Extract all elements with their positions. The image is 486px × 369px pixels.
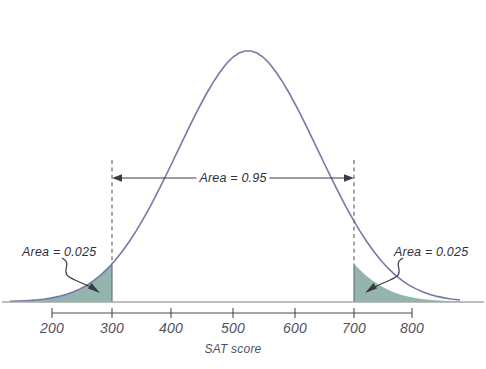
- left-callout-squiggle: [62, 258, 92, 288]
- x-tick-label-500: 500: [221, 320, 245, 336]
- right-tail-area-label: Area = 0.025: [394, 245, 468, 259]
- x-tick-label-200: 200: [40, 320, 64, 336]
- left-tail-area-label: Area = 0.025: [22, 245, 96, 259]
- x-tick-label-700: 700: [342, 320, 366, 336]
- normal-distribution-figure: Area = 0.95 Area = 0.025 Area = 0.025 20…: [0, 0, 486, 369]
- x-tick-label-600: 600: [283, 320, 307, 336]
- x-tick-label-800: 800: [400, 320, 424, 336]
- x-tick-label-400: 400: [159, 320, 183, 336]
- span-arrowhead-right: [344, 174, 354, 182]
- right-callout-squiggle: [373, 258, 403, 288]
- x-tick-label-300: 300: [100, 320, 124, 336]
- x-axis-title: SAT score: [205, 342, 262, 356]
- central-area-label: Area = 0.95: [196, 171, 269, 185]
- span-arrowhead-left: [112, 174, 122, 182]
